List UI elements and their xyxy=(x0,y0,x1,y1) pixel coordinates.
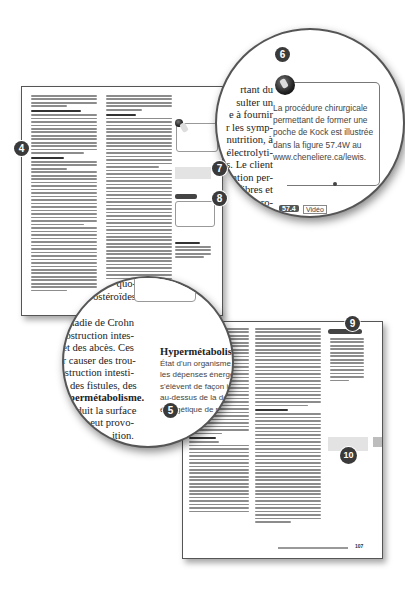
magnifier-video-callout: rtant du sulter un e à fournir r les sym… xyxy=(215,28,405,218)
clinical-reasoning-tag xyxy=(328,329,362,334)
reference-box xyxy=(175,167,211,179)
callout-badge-9: 9 xyxy=(345,316,360,331)
text-column-2 xyxy=(106,95,172,281)
callout-badge-4: 4 xyxy=(14,141,29,156)
footer-chapter-line xyxy=(278,547,348,549)
sidebar-questions xyxy=(330,338,364,383)
sidebar-tag xyxy=(175,194,197,199)
margin-box-edge xyxy=(134,276,196,302)
page-edge-tab xyxy=(373,437,382,447)
video-tag: 57.4 xyxy=(279,205,299,212)
callout-badge-5: 5 xyxy=(163,403,178,418)
magnifier-glossary-callout: quo- ostéroïdes maladie de Crohn obstruc… xyxy=(62,276,234,448)
magnified-body-text: maladie de Crohn obstruction intes- s et… xyxy=(62,317,134,448)
page-number: 107 xyxy=(355,543,363,549)
video-camera-icon xyxy=(275,75,295,95)
glossary-margin xyxy=(175,239,211,260)
glossary-term: Hypermétabolisme : xyxy=(160,346,234,358)
callout-badge-8: 8 xyxy=(212,191,227,206)
video-label: Vidéo xyxy=(303,205,327,214)
video-callout-text: La procédure chirurgicale permettant de … xyxy=(273,102,373,163)
text-column-1 xyxy=(31,95,97,293)
callout-badge-7: 7 xyxy=(212,161,227,176)
callout-badge-10: 10 xyxy=(340,447,357,464)
callout-badge-6: 6 xyxy=(275,47,290,62)
video-camera-icon xyxy=(175,119,183,127)
callout-pointer-dot xyxy=(333,182,337,186)
magnified-top-text: quo- ostéroïdes xyxy=(64,278,136,303)
sidebar-box xyxy=(175,201,215,227)
text-column-2 xyxy=(255,328,321,525)
